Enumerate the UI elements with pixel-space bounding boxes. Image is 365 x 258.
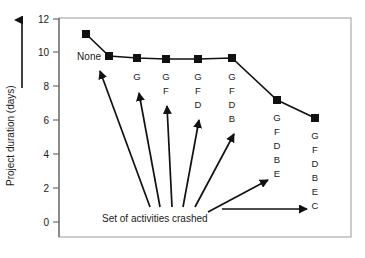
data-point-3 [133, 54, 141, 62]
point-label-set-3: G F D [194, 71, 201, 110]
crash-letter: D [312, 158, 319, 169]
data-point-4 [162, 55, 170, 63]
y-tick-label-4: 4 [43, 149, 49, 160]
data-point-7 [273, 96, 281, 104]
data-point-6 [228, 54, 236, 62]
y-tick-label-10: 10 [38, 47, 50, 58]
crash-letter: D [195, 99, 202, 110]
y-tick-label-0: 0 [43, 217, 49, 228]
data-point-8 [311, 114, 319, 122]
crash-letter: G [311, 130, 318, 141]
crash-letter: F [195, 85, 201, 96]
y-tick-label-12: 12 [38, 14, 50, 25]
crash-letter: G [162, 71, 169, 82]
point-label-set-1: G [133, 71, 140, 82]
crash-letter: F [229, 85, 235, 96]
crash-letter: C [312, 200, 319, 211]
point-label-set-5: G F D B E [273, 112, 280, 179]
crash-letter: F [274, 126, 280, 137]
annotation-set-of-activities-crashed: Set of activities crashed [102, 213, 208, 224]
project-duration-crash-chart: 12 10 8 6 4 2 0 Project duration (days) [0, 0, 365, 258]
crash-letter: D [229, 99, 236, 110]
crash-letter: D [274, 140, 281, 151]
crash-letter: F [312, 144, 318, 155]
crash-letter: G [194, 71, 201, 82]
y-tick-label-8: 8 [43, 81, 49, 92]
data-point-2 [105, 52, 113, 60]
y-tick-label-2: 2 [43, 183, 49, 194]
crash-letter: E [312, 186, 318, 197]
data-point-5 [194, 55, 202, 63]
crash-letter: G [273, 112, 280, 123]
crash-letter: E [274, 168, 280, 179]
y-tick-label-6: 6 [43, 115, 49, 126]
crash-letter: B [229, 113, 235, 124]
crash-letter: G [133, 71, 140, 82]
crash-letter: B [274, 154, 280, 165]
crash-letter: G [228, 71, 235, 82]
y-axis-ticks [53, 19, 59, 222]
crash-letter: B [312, 172, 318, 183]
y-axis-title: Project duration (days) [5, 85, 16, 186]
chart-container: 12 10 8 6 4 2 0 Project duration (days) [0, 0, 365, 258]
crash-letter: F [163, 85, 169, 96]
data-point-1 [82, 30, 90, 38]
point-label-none: None [77, 51, 101, 62]
